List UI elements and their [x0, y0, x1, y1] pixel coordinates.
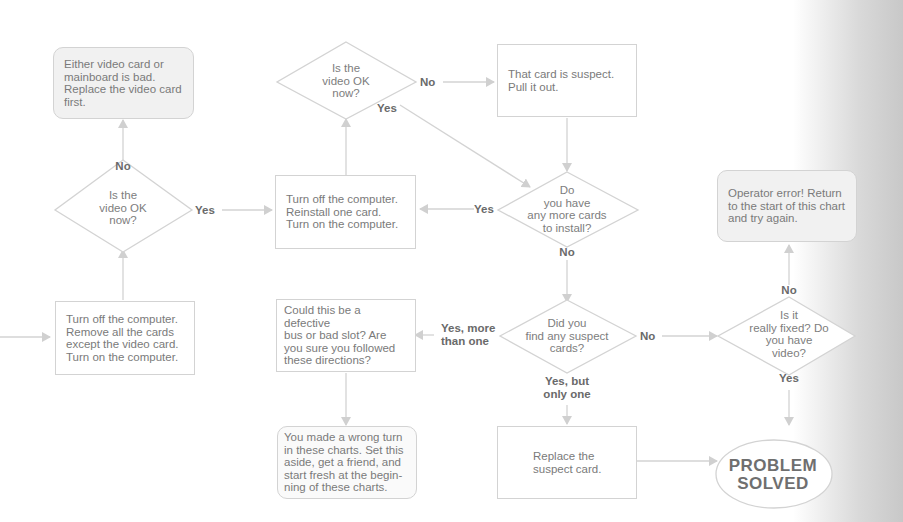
decision-video-ok-top: Is the video OK now? [322, 62, 369, 100]
label-suspect-yes-more: Yes, more than one [441, 322, 495, 347]
node-wrong-turn: You made a wrong turn in these charts. S… [277, 426, 417, 499]
node-reinstall-card: Turn off the computer. Reinstall one car… [275, 175, 416, 249]
node-text: Turn off the computer. Reinstall one car… [286, 193, 398, 231]
node-remove-cards: Turn off the computer. Remove all the ca… [55, 301, 195, 375]
node-text: Replace the suspect card. [533, 450, 601, 475]
decision-video-ok-left: Is the video OK now? [99, 189, 146, 227]
label-left-yes: Yes [195, 204, 215, 217]
label-more-no: No [559, 246, 574, 259]
node-problem-solved: PROBLEM SOLVED [729, 457, 818, 493]
node-text: Could this be a defective bus or bad slo… [284, 304, 405, 367]
label-fixed-yes: Yes [779, 372, 799, 385]
label-left-no: No [115, 160, 130, 173]
label-top-yes: Yes [377, 102, 397, 115]
label-suspect-yes-one: Yes, but only one [543, 375, 590, 400]
node-text: You made a wrong turn in these charts. S… [284, 431, 404, 494]
decision-really-fixed: Is it really fixed? Do you have video? [749, 309, 828, 359]
node-text: Turn off the computer. Remove all the ca… [66, 313, 179, 363]
label-suspect-no: No [640, 330, 655, 343]
decision-more-cards: Do you have any more cards to install? [527, 184, 606, 234]
node-text: Either video card or mainboard is bad. R… [64, 58, 182, 108]
node-replace-suspect: Replace the suspect card. [497, 426, 637, 499]
node-text: That card is suspect. Pull it out. [508, 68, 614, 93]
label-fixed-no: No [781, 284, 796, 297]
decision-suspect-cards: Did you find any suspect cards? [525, 317, 608, 355]
label-top-no: No [420, 76, 435, 89]
node-operator-error: Operator error! Return to the start of t… [717, 170, 857, 242]
label-more-yes: Yes [474, 203, 494, 216]
node-defective-bus: Could this be a defective bus or bad slo… [276, 299, 416, 372]
node-card-suspect: That card is suspect. Pull it out. [497, 44, 637, 117]
node-replace-video-card: Either video card or mainboard is bad. R… [53, 47, 194, 119]
node-text: Operator error! Return to the start of t… [728, 187, 845, 225]
